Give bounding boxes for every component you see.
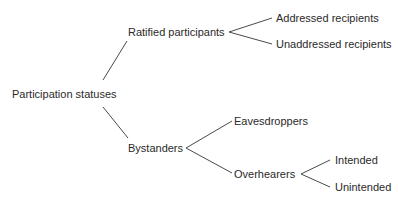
edge-overhearers-intended <box>301 160 330 174</box>
participation-tree-diagram: Participation statuses Ratified particip… <box>0 0 398 202</box>
node-overhearers: Overhearers <box>234 168 295 181</box>
node-unintended: Unintended <box>335 181 391 194</box>
edge-ratified-unaddressed <box>229 32 272 44</box>
node-bystanders: Bystanders <box>128 142 183 155</box>
edge-root-bystanders <box>103 107 128 138</box>
node-ratified-participants: Ratified participants <box>128 26 225 39</box>
edge-ratified-addressed <box>229 18 272 32</box>
node-eavesdroppers: Eavesdroppers <box>234 115 308 128</box>
node-addressed-recipients: Addressed recipients <box>276 12 379 25</box>
node-intended: Intended <box>335 154 378 167</box>
edge-bystanders-overhearers <box>186 148 232 173</box>
node-participation-statuses: Participation statuses <box>12 88 117 101</box>
edge-bystanders-eavesdroppers <box>186 121 232 148</box>
node-unaddressed-recipients: Unaddressed recipients <box>276 38 392 51</box>
edge-overhearers-unintended <box>301 174 330 187</box>
edge-root-ratified <box>103 41 127 80</box>
